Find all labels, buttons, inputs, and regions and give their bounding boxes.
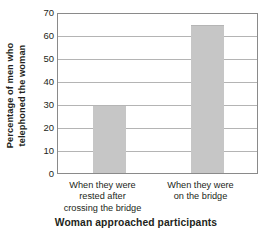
gridline-60: [58, 36, 257, 37]
gridline-30: [58, 105, 257, 106]
y-tick-label-50: 50: [14, 54, 54, 64]
y-axis-title: Percentage of men who telephoned the wom…: [0, 0, 34, 190]
bar-rested-after-crossing: [93, 105, 126, 173]
gridline-50: [58, 59, 257, 60]
x-category-label-0-line-1: When they were: [56, 180, 149, 191]
bar-on-the-bridge: [191, 25, 224, 173]
x-category-label-1-line-1: When they were: [154, 180, 247, 191]
x-category-label-0-line-2: rested after: [56, 191, 149, 202]
x-category-label-0-line-3: crossing the bridge: [56, 203, 149, 214]
x-category-label-1-line-2: on the bridge: [154, 191, 247, 202]
x-category-label-0: When they were rested after crossing the…: [56, 180, 149, 214]
gridline-10: [58, 151, 257, 152]
x-category-label-1: When they were on the bridge: [154, 180, 247, 203]
y-tick-label-20: 20: [14, 123, 54, 133]
x-axis-title: Woman approached participants: [0, 217, 272, 228]
y-tick-label-70: 70: [14, 8, 54, 18]
gridline-40: [58, 82, 257, 83]
plot-area: [57, 13, 258, 174]
y-tick-label-40: 40: [14, 77, 54, 87]
gridline-20: [58, 128, 257, 129]
y-tick-label-60: 60: [14, 31, 54, 41]
y-tick-label-10: 10: [14, 146, 54, 156]
y-tick-label-0: 0: [14, 169, 54, 179]
bar-chart-figure: Percentage of men who telephoned the wom…: [0, 0, 272, 234]
y-tick-label-30: 30: [14, 100, 54, 110]
